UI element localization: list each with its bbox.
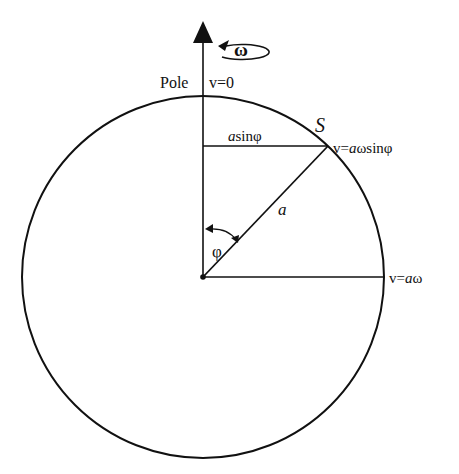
a-sin-phi-label: asinφ <box>228 128 262 144</box>
point-s-label: S <box>315 114 325 136</box>
omega-label: ω <box>234 39 248 60</box>
pole-label: Pole <box>160 74 188 91</box>
velocity-at-s-label: v=aωsinφ <box>333 140 393 156</box>
radius-label: a <box>278 200 287 219</box>
equator-velocity-label: v=aω <box>389 270 422 286</box>
rotating-sphere-diagram: ω Pole v=0 asinφ S v=aωsinφ a φ v=aω <box>0 0 459 474</box>
angle-arrow-left-icon <box>205 224 213 233</box>
axis-arrowhead-icon <box>193 21 213 43</box>
angle-phi-label: φ <box>212 242 222 261</box>
pole-velocity-label: v=0 <box>209 74 234 91</box>
